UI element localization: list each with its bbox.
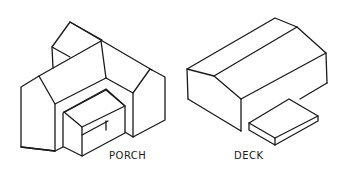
porch-house-drawing xyxy=(21,22,165,156)
deck-label: DECK xyxy=(234,150,264,161)
deck-house-drawing xyxy=(187,18,327,145)
porch-label: PORCH xyxy=(109,150,146,161)
diagram-canvas xyxy=(0,0,343,176)
